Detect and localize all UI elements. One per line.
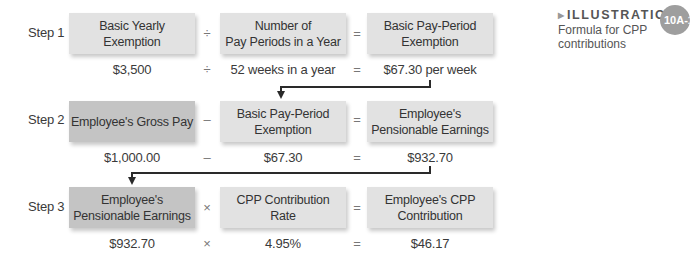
connector-line xyxy=(131,166,431,174)
pensionable-earnings-box: Employee's Pensionable Earnings xyxy=(367,101,493,142)
box-line-1: Basic Pay-Period xyxy=(237,106,330,122)
equals-operator: = xyxy=(347,236,367,251)
equals-operator: = xyxy=(347,112,367,127)
box-line-1: CPP Contribution xyxy=(236,192,329,208)
box-line-2: Pensionable Earnings xyxy=(73,208,191,224)
value-basic-yearly-exemption: $3,500 xyxy=(69,62,195,77)
value-cpp-contribution: $46.17 xyxy=(367,236,493,251)
minus-operator: – xyxy=(197,150,217,165)
step-1-label: Step 1 xyxy=(28,25,64,40)
employee-gross-pay-box: Employee's Gross Pay xyxy=(69,101,195,142)
connector-line xyxy=(280,80,431,88)
box-line-1: Employee's xyxy=(371,106,489,122)
employee-cpp-contribution-box: Employee's CPP Contribution xyxy=(367,187,493,228)
triangle-bullet-icon: ▶ xyxy=(558,11,564,20)
illustration-caption: ▶ ILLUSTRATION Formula for CPP contribut… xyxy=(558,8,677,51)
value-gross-pay: $1,000.00 xyxy=(69,150,195,165)
box-line-1: Employee's CPP xyxy=(385,192,476,208)
box-line-1: Employee's xyxy=(73,192,191,208)
value-basic-pay-period-exemption: $67.30 xyxy=(220,150,346,165)
box-line-2: Pensionable Earnings xyxy=(371,122,489,138)
illustration-subtitle: Formula for CPP contributions xyxy=(558,23,677,51)
minus-operator: – xyxy=(197,112,217,127)
pensionable-earnings-box: Employee's Pensionable Earnings xyxy=(69,187,195,228)
box-line-1: Basic Pay-Period xyxy=(384,18,477,34)
box-line-2: Contribution xyxy=(385,208,476,224)
step-2-label: Step 2 xyxy=(28,112,64,127)
basic-yearly-exemption-box: Basic Yearly Exemption xyxy=(69,13,195,54)
basic-pay-period-exemption-box: Basic Pay-Period Exemption xyxy=(367,13,493,54)
multiply-operator: × xyxy=(197,236,217,251)
box-line-1: Basic Yearly xyxy=(99,18,165,34)
box-line-2: Exemption xyxy=(237,122,330,138)
subtitle-line-1: Formula for CPP xyxy=(558,23,677,37)
box-line-2: Exemption xyxy=(384,34,477,50)
illustration-number-badge: 10A-1 xyxy=(660,5,690,35)
divide-operator: ÷ xyxy=(197,26,217,41)
pay-periods-box: Number of Pay Periods in a Year xyxy=(220,13,346,54)
arrow-down-icon xyxy=(277,91,285,99)
step-3-label: Step 3 xyxy=(28,199,64,214)
box-line-2: Exemption xyxy=(99,34,165,50)
multiply-operator: × xyxy=(197,200,217,215)
value-pay-periods: 52 weeks in a year xyxy=(210,62,356,77)
box-line-1: Employee's Gross Pay xyxy=(71,114,193,130)
box-line-1: Number of xyxy=(225,18,340,34)
box-line-2: Pay Periods in a Year xyxy=(225,34,340,50)
equals-operator: = xyxy=(347,150,367,165)
arrow-down-icon xyxy=(128,177,136,185)
subtitle-line-2: contributions xyxy=(558,37,677,51)
box-line-2: Rate xyxy=(236,208,329,224)
value-pensionable-earnings: $932.70 xyxy=(367,150,493,165)
basic-pay-period-exemption-box: Basic Pay-Period Exemption xyxy=(220,101,346,142)
equals-operator: = xyxy=(347,26,367,41)
cpp-contribution-rate-box: CPP Contribution Rate xyxy=(220,187,346,228)
equals-operator: = xyxy=(347,200,367,215)
value-pensionable-earnings: $932.70 xyxy=(69,236,195,251)
value-cpp-rate: 4.95% xyxy=(220,236,346,251)
value-basic-pay-period-exemption: $67.30 per week xyxy=(360,62,500,77)
